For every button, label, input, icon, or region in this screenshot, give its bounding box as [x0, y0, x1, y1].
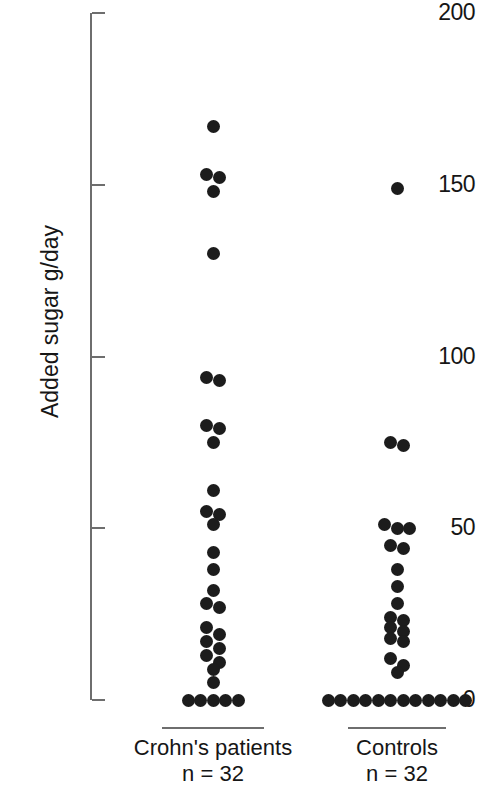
data-point [207, 584, 220, 597]
data-point [391, 522, 404, 535]
data-point [207, 247, 220, 260]
data-point [447, 694, 460, 707]
data-point [384, 539, 397, 552]
group-label-crohns: Crohn's patients [134, 735, 292, 760]
data-point [200, 371, 213, 384]
group-caption-controls: Controls n = 32 [309, 735, 480, 787]
data-point [391, 182, 404, 195]
data-point [384, 632, 397, 645]
group-caption-crohns: Crohn's patients n = 32 [103, 735, 323, 787]
data-point [207, 676, 220, 689]
data-point [397, 635, 410, 648]
data-point [372, 694, 385, 707]
data-point [378, 518, 391, 531]
data-point [200, 597, 213, 610]
data-point [359, 694, 372, 707]
data-point [322, 694, 335, 707]
data-point [213, 628, 226, 641]
data-point [213, 171, 226, 184]
data-point [207, 185, 220, 198]
data-point [200, 419, 213, 432]
data-point [207, 663, 220, 676]
data-point [200, 168, 213, 181]
data-point [409, 694, 422, 707]
data-point [213, 601, 226, 614]
data-point [391, 597, 404, 610]
data-point [347, 694, 360, 707]
data-point [391, 580, 404, 593]
data-point [200, 649, 213, 662]
group-n-crohns: n = 32 [103, 761, 323, 787]
data-point [200, 505, 213, 518]
data-point [200, 621, 213, 634]
data-point [391, 666, 404, 679]
group-label-controls: Controls [356, 735, 438, 760]
group-rule-controls [348, 727, 446, 729]
data-point [182, 694, 195, 707]
data-point [334, 694, 347, 707]
data-point [397, 542, 410, 555]
data-point [232, 694, 245, 707]
data-point [384, 652, 397, 665]
data-point [213, 422, 226, 435]
data-point [207, 436, 220, 449]
data-point [434, 694, 447, 707]
data-point [200, 635, 213, 648]
data-point [194, 694, 207, 707]
data-point [384, 436, 397, 449]
data-point [397, 439, 410, 452]
data-point [207, 563, 220, 576]
data-point [422, 694, 435, 707]
data-point [213, 374, 226, 387]
group-rule-crohns [162, 727, 264, 729]
data-point [397, 694, 410, 707]
data-point [213, 642, 226, 655]
data-point [207, 484, 220, 497]
data-point [459, 694, 472, 707]
data-point [391, 563, 404, 576]
data-point [207, 120, 220, 133]
data-point [403, 522, 416, 535]
data-point [384, 694, 397, 707]
data-point [207, 518, 220, 531]
data-point [219, 694, 232, 707]
data-point [207, 694, 220, 707]
group-n-controls: n = 32 [309, 761, 480, 787]
data-point [207, 546, 220, 559]
